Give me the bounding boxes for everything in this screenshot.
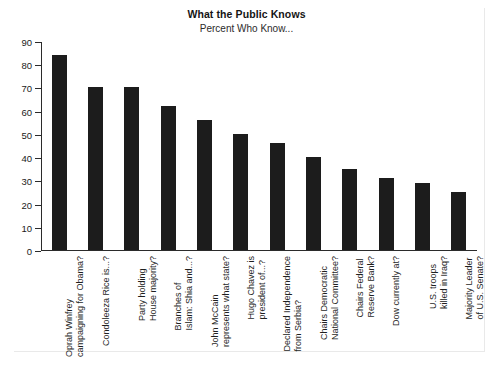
- x-axis-label: Declared Independencefrom Serbia?: [282, 256, 303, 352]
- x-axis-line: [41, 250, 477, 251]
- y-axis-tick-label: 20: [21, 199, 32, 210]
- x-axis-label-line: John McCain: [210, 295, 220, 348]
- x-axis-label-line: Condoleeza Rice is...?: [101, 256, 111, 346]
- chart-title-block: What the Public Knows Percent Who Know..…: [0, 8, 493, 34]
- x-axis-label: Oprah Winfreycampaigning for Obama?: [64, 256, 85, 357]
- y-axis-tick-mark: [35, 228, 41, 229]
- x-axis-label-line: U.S. troops: [428, 264, 438, 309]
- x-axis-label-line: president of...?: [256, 256, 267, 320]
- x-axis-label-line: from Serbia?: [293, 256, 304, 352]
- y-axis-tick-label: 30: [21, 176, 32, 187]
- x-axis-label-line: Dow currently at?: [391, 256, 401, 326]
- y-axis-line: [41, 42, 42, 251]
- x-axis-label: Majority Leaderof U.S. Senate?: [464, 256, 485, 320]
- x-axis-label-line: Oprah Winfrey: [64, 299, 74, 357]
- bar: [197, 120, 212, 250]
- x-axis-label-line: Branches of: [173, 283, 183, 331]
- y-axis-tick-label: 70: [21, 83, 32, 94]
- x-axis-label-line: Reserve Bank?: [365, 256, 376, 318]
- x-axis-label-line: Party holding: [137, 268, 147, 321]
- bar: [124, 87, 139, 250]
- y-axis-tick-mark: [35, 181, 41, 182]
- y-axis-tick-label: 0: [27, 246, 32, 257]
- x-axis-label-line: Majority Leader: [464, 258, 474, 320]
- chart-subtitle: Percent Who Know...: [0, 23, 493, 34]
- x-axis-label-line: Chairs Federal: [355, 259, 365, 318]
- x-axis-label-line: killed in Iraq?: [438, 256, 449, 309]
- bar: [342, 169, 357, 250]
- chart-title: What the Public Knows: [0, 8, 493, 20]
- y-axis-tick-mark: [35, 65, 41, 66]
- y-axis-tick-mark: [35, 251, 41, 252]
- y-axis-tick-label: 80: [21, 60, 32, 71]
- x-axis-label: John McCainrepresents what state?: [210, 256, 231, 347]
- x-axis-label: Chairs DemocraticNational Committee?: [319, 256, 340, 340]
- y-axis-tick-mark: [35, 42, 41, 43]
- y-axis-tick-label: 50: [21, 129, 32, 140]
- bar-chart-figure: What the Public Knows Percent Who Know..…: [0, 0, 493, 370]
- bar: [379, 178, 394, 250]
- bar: [161, 106, 176, 250]
- plot-area: 0102030405060708090: [41, 42, 477, 251]
- bar: [306, 157, 321, 250]
- y-axis-tick-label: 60: [21, 106, 32, 117]
- y-axis-tick-label: 10: [21, 222, 32, 233]
- x-axis-label-line: Islam: Shia and...?: [184, 256, 195, 331]
- x-axis-label: Dow currently at?: [391, 256, 402, 326]
- x-axis-label-line: represents what state?: [220, 256, 231, 347]
- x-axis-labels: Oprah Winfreycampaigning for Obama?Condo…: [41, 253, 477, 370]
- y-axis-tick-label: 40: [21, 153, 32, 164]
- y-axis-tick-mark: [35, 112, 41, 113]
- y-axis-tick-mark: [35, 205, 41, 206]
- y-axis-tick-mark: [35, 88, 41, 89]
- bar: [88, 87, 103, 250]
- y-axis-tick-mark: [35, 158, 41, 159]
- bar: [52, 55, 67, 250]
- x-axis-label: U.S. troopskilled in Iraq?: [428, 256, 449, 309]
- bar: [270, 143, 285, 250]
- x-axis-label: Hugo Chavez ispresident of...?: [246, 256, 267, 320]
- x-axis-label: Party holdingHouse majority?: [137, 256, 158, 321]
- y-axis-tick-mark: [35, 135, 41, 136]
- bar: [233, 134, 248, 250]
- x-axis-label-line: Chairs Democratic: [319, 266, 329, 340]
- x-axis-label: Condoleeza Rice is...?: [101, 256, 112, 346]
- x-axis-label-line: House majority?: [147, 256, 158, 321]
- bar: [451, 192, 466, 250]
- x-axis-label-line: Hugo Chavez is: [246, 256, 256, 320]
- y-axis-tick-label: 90: [21, 37, 32, 48]
- x-axis-label-line: National Committee?: [329, 256, 340, 340]
- x-axis-label-line: of U.S. Senate?: [474, 256, 485, 320]
- bar: [415, 183, 430, 250]
- x-axis-label: Branches ofIslam: Shia and...?: [173, 256, 194, 331]
- x-axis-label-line: Declared Independence: [282, 256, 292, 352]
- x-axis-label-line: campaigning for Obama?: [75, 256, 86, 357]
- x-axis-label: Chairs FederalReserve Bank?: [355, 256, 376, 318]
